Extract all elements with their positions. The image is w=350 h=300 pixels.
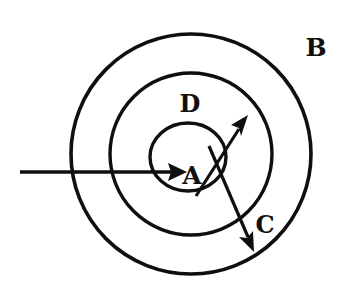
label-b: B	[305, 33, 326, 62]
diagram-canvas: B D A C	[0, 0, 350, 300]
label-d: D	[180, 89, 201, 118]
up-right-arrow-head	[231, 115, 248, 136]
concentric-circles-diagram: B D A C	[0, 0, 350, 300]
label-a: A	[181, 161, 202, 190]
down-right-arrow-shaft	[209, 146, 248, 237]
outer-circle-b	[71, 34, 311, 274]
label-c: C	[255, 210, 274, 239]
